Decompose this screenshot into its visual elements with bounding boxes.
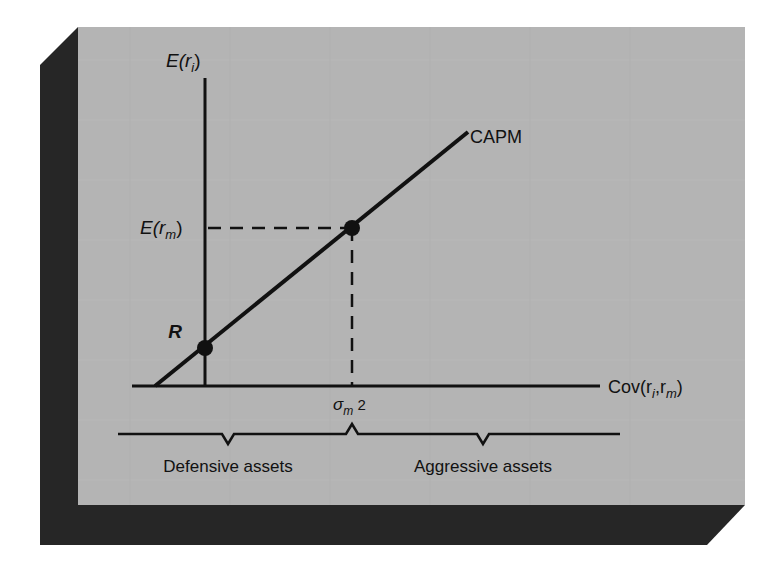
risk-free-label: R [168, 321, 182, 342]
defensive-assets-label: Defensive assets [163, 457, 292, 476]
aggressive-assets-label: Aggressive assets [414, 457, 552, 476]
market-portfolio-point [344, 220, 360, 236]
capm-diagram: E(ri) Cov(ri,rm) CAPM R E(rm) σm 2 Defen… [0, 0, 770, 570]
risk-free-point [197, 340, 213, 356]
figure-container: E(ri) Cov(ri,rm) CAPM R E(rm) σm 2 Defen… [0, 0, 770, 570]
capm-label: CAPM [470, 127, 522, 147]
